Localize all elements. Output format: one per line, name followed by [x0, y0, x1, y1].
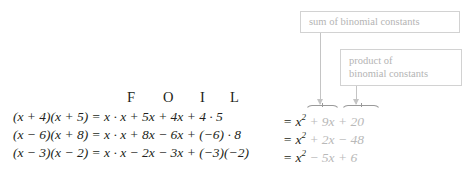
foil-letter-outer: O	[163, 89, 174, 106]
equation-3-result: = x2 − 5x + 6	[283, 144, 357, 167]
foil-header-row: F O I L	[0, 89, 467, 107]
foil-letter-inner: I	[200, 89, 205, 106]
equation-2-binomials: (x − 6)(x + 8)	[13, 127, 88, 142]
equation-2-exponent: 2	[302, 130, 307, 140]
callout-product-of-binomial-constants: product of binomial constants	[340, 49, 462, 86]
callout-sum-of-binomial-constants: sum of binomial constants	[300, 11, 460, 33]
equation-3-binomials: (x − 3)(x − 2)	[13, 145, 88, 160]
equation-1-binomials: (x + 4)(x + 5)	[13, 109, 88, 124]
equation-1-binomials-and-expansion: (x + 4)(x + 5) = x · x + 5x + 4x + 4 · 5	[13, 108, 223, 126]
equation-1-exponent: 2	[302, 112, 307, 122]
callout-product-label-line1: product of	[349, 55, 392, 66]
equation-3-exponent: 2	[302, 148, 307, 158]
foil-letter-first: F	[127, 89, 135, 106]
equation-2-binomials-and-expansion: (x − 6)(x + 8) = x · x + 8x − 6x + (−6) …	[13, 126, 241, 144]
figure-canvas: sum of binomial constants product of bin…	[0, 0, 467, 175]
callout-sum-label: sum of binomial constants	[309, 16, 420, 27]
equation-1-expansion: = x · x + 5x + 4x + 4 · 5	[92, 109, 223, 124]
equation-3-binomials-and-expansion: (x − 3)(x − 2) = x · x − 2x − 3x + (−3)(…	[13, 144, 249, 162]
equation-3-product-term: + 6	[338, 150, 357, 165]
callout-product-label-line2: binomial constants	[349, 68, 454, 81]
equation-3-expansion: = x · x − 2x − 3x + (−3)(−2)	[92, 145, 249, 160]
equation-3-sum-term: − 5x	[309, 150, 334, 165]
foil-letter-last: L	[230, 89, 239, 106]
equation-2-expansion: = x · x + 8x − 6x + (−6) · 8	[92, 127, 241, 142]
